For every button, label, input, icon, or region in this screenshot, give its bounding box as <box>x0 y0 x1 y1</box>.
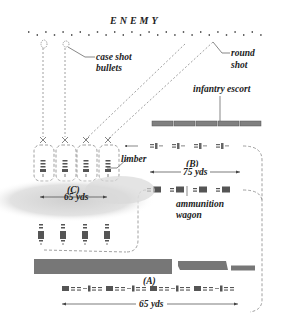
vehicles-row-a <box>62 286 234 292</box>
section-a-label: (A) <box>143 276 156 286</box>
rear-limbered-guns <box>38 224 110 245</box>
round-shot-label-2: shot <box>231 60 247 70</box>
ammunition-wagons-row <box>147 187 230 193</box>
round-shot-label-1: round <box>231 48 255 58</box>
guns-with-limbers <box>40 160 111 177</box>
enemy-line <box>28 31 262 36</box>
case-shot-bursts <box>41 40 69 48</box>
distance-b-label: 75 yds <box>181 167 210 177</box>
ammunition-wagon-label-1: ammunition <box>176 199 224 209</box>
enemy-title: ENEMY <box>110 15 161 26</box>
case-shot-label-1: case shot <box>96 52 132 62</box>
case-shot-label-2: bullets <box>96 63 122 73</box>
limber-label: limber <box>121 154 146 164</box>
infantry-escort <box>152 121 261 126</box>
limbers-row-b <box>150 143 229 149</box>
ammunition-wagon-label-2: wagon <box>176 210 202 220</box>
distance-c-label: 65 yds <box>62 192 91 202</box>
distance-a-label: 65 yds <box>136 299 167 309</box>
infantry-escort-label: infantry escort <box>193 84 250 94</box>
artillery-battery-diagram: ENEMY case shot bullets round shot infan… <box>0 0 281 327</box>
infantry-mass-a <box>34 259 255 274</box>
gun-muzzles <box>40 137 111 143</box>
